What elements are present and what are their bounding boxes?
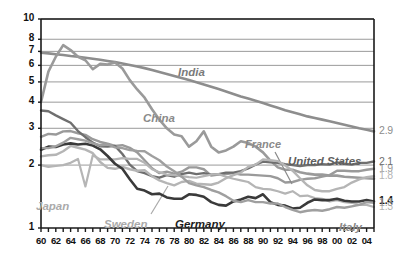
- x-tick-label-04: 04: [357, 235, 377, 246]
- end-value-italy: 1.3: [379, 196, 405, 208]
- y-tick-label-7: 7: [12, 44, 34, 55]
- y-tick-label-4: 4: [12, 95, 34, 106]
- series-label-united-states: United States: [288, 155, 362, 167]
- end-value-india: 2.9: [379, 124, 405, 136]
- chart-figure: 1087654321 60626466687072747678808284868…: [0, 0, 416, 268]
- plot-background: [41, 19, 374, 228]
- y-tick-label-6: 6: [12, 58, 34, 69]
- y-tick-label-10: 10: [12, 12, 34, 23]
- series-label-germany: Germany: [175, 218, 225, 230]
- series-label-india: India: [178, 66, 205, 78]
- series-label-sweden: Sweden: [104, 218, 147, 230]
- series-label-japan: Japan: [36, 200, 69, 212]
- series-label-france: France: [245, 138, 281, 150]
- y-tick-label-1: 1: [12, 221, 34, 232]
- y-tick-label-3: 3: [12, 121, 34, 132]
- y-tick-label-8: 8: [12, 32, 34, 43]
- series-label-china: China: [143, 112, 175, 124]
- end-value-united-states: 2.1: [379, 155, 405, 167]
- y-tick-label-5: 5: [12, 75, 34, 86]
- series-label-italy: Italy: [339, 221, 362, 233]
- y-tick-label-2: 2: [12, 158, 34, 169]
- end-value-sweden: 1.8: [379, 169, 405, 181]
